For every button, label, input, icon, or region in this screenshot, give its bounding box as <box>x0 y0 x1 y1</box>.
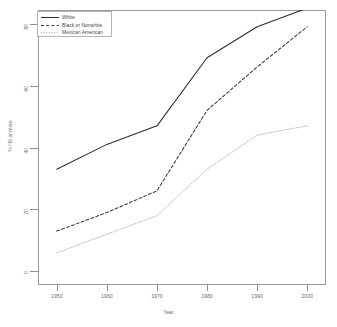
y-axis-tick <box>30 86 38 87</box>
chart-screenshot: 020406080 % HS or more 19501960197019801… <box>0 0 337 327</box>
x-axis-tick <box>257 285 258 291</box>
x-axis-tick <box>107 285 108 291</box>
x-axis-tick-label: 1970 <box>142 293 172 299</box>
legend-line-swatch-icon <box>41 16 59 19</box>
x-axis-tick-label: 2000 <box>292 293 322 299</box>
y-axis-tick <box>30 148 38 149</box>
y-axis-tick <box>30 209 38 210</box>
y-axis-title: % HS or more <box>7 106 13 166</box>
legend: WhiteBlack or NonwhiteMexican American <box>37 11 112 37</box>
x-axis-tick <box>57 285 58 291</box>
legend-line-swatch-icon <box>41 24 59 27</box>
legend-item-label: Mexican American <box>62 29 103 36</box>
legend-item: Black or Nonwhite <box>41 22 108 29</box>
x-axis-tick <box>207 285 208 291</box>
legend-line-swatch-icon <box>41 31 59 34</box>
legend-item: White <box>41 14 108 21</box>
x-axis-tick <box>157 285 158 291</box>
legend-item-label: White <box>62 14 75 21</box>
y-axis-tick-label: 20 <box>23 209 29 235</box>
y-axis-tick <box>30 271 38 272</box>
x-axis-tick-label: 1980 <box>192 293 222 299</box>
legend-item-label: Black or Nonwhite <box>62 22 102 29</box>
y-axis-tick-label: 60 <box>23 86 29 112</box>
plot-data-layer <box>38 10 326 285</box>
y-axis-tick-label: 80 <box>23 24 29 50</box>
series-line-black-or-nonwhite <box>57 27 307 231</box>
y-axis-tick-label: 0 <box>23 271 29 297</box>
x-axis-tick-label: 1990 <box>242 293 272 299</box>
x-axis-tick-label: 1950 <box>42 293 72 299</box>
x-axis-tick-label: 1960 <box>92 293 122 299</box>
legend-item: Mexican American <box>41 29 108 36</box>
x-axis-tick <box>307 285 308 291</box>
y-axis-tick-label: 40 <box>23 148 29 174</box>
x-axis-title: Year <box>0 309 337 315</box>
series-line-mexican-american <box>57 126 307 253</box>
